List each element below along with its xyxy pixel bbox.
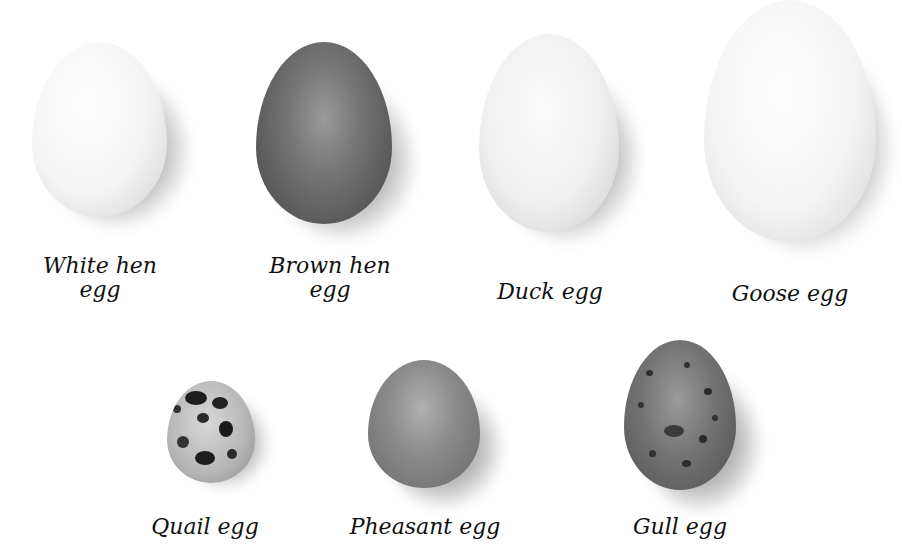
- gull-spot: [638, 402, 644, 408]
- quail-spot: [173, 405, 181, 413]
- white-hen-egg-label: White hen egg: [20, 254, 180, 302]
- gull-spot: [664, 425, 684, 437]
- quail-egg-label: Quail egg: [135, 515, 275, 539]
- brown-hen-egg-label: Brown hen egg: [250, 254, 410, 302]
- gull-spot: [682, 460, 691, 467]
- quail-spot: [212, 397, 228, 409]
- quail-spot: [177, 436, 189, 448]
- goose-egg-label: Goose egg: [710, 282, 870, 306]
- gull-spot: [649, 450, 656, 457]
- gull-spot: [699, 435, 707, 443]
- quail-spot: [219, 421, 233, 437]
- gull-spot: [646, 370, 653, 376]
- quail-spot: [197, 413, 209, 423]
- gull-egg-label: Gull egg: [610, 515, 750, 539]
- pheasant-egg-label: Pheasant egg: [340, 515, 510, 539]
- goose-egg: [704, 0, 876, 242]
- quail-spot: [195, 451, 215, 465]
- duck-egg: [479, 34, 619, 232]
- quail-spot: [185, 391, 207, 405]
- duck-egg-label: Duck egg: [470, 280, 630, 304]
- gull-spot: [704, 388, 712, 395]
- gull-egg: [624, 340, 736, 490]
- white-hen-egg: [32, 42, 167, 217]
- quail-egg: [167, 381, 255, 483]
- pheasant-egg: [368, 360, 480, 488]
- gull-spot: [712, 415, 718, 421]
- gull-spot: [684, 362, 690, 368]
- quail-spot: [227, 449, 237, 459]
- brown-hen-egg: [256, 42, 392, 224]
